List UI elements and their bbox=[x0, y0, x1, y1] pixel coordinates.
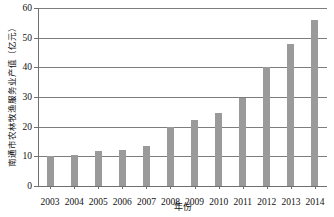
bar bbox=[263, 67, 270, 186]
y-axis-tick-label: 0 bbox=[6, 181, 32, 191]
x-axis-line bbox=[38, 186, 327, 187]
plot-area: 2003200420052006200720082009201020112012… bbox=[38, 8, 327, 186]
y-axis-tick-label: 30 bbox=[6, 92, 32, 102]
bar bbox=[95, 151, 102, 186]
bar bbox=[47, 156, 54, 186]
y-axis-tick-label: 40 bbox=[6, 62, 32, 72]
gridline bbox=[38, 67, 327, 68]
y-axis-tick-label: 20 bbox=[6, 122, 32, 132]
bar bbox=[311, 20, 318, 186]
y-axis-tick-label: 60 bbox=[6, 3, 32, 13]
gridline bbox=[38, 97, 327, 98]
bar-chart-figure: 南通市农林牧渔服务业产值（亿元） 0102030405060 200320042… bbox=[0, 0, 334, 217]
bar bbox=[71, 155, 78, 186]
bar bbox=[239, 98, 246, 186]
y-axis-tick-label: 50 bbox=[6, 33, 32, 43]
gridline bbox=[38, 156, 327, 157]
gridline bbox=[38, 38, 327, 39]
y-axis-line bbox=[38, 8, 39, 187]
gridline bbox=[38, 8, 327, 9]
y-axis-tick-label: 10 bbox=[6, 151, 32, 161]
gridline bbox=[38, 127, 327, 128]
bar bbox=[287, 44, 294, 186]
x-axis-title: 年份 bbox=[38, 200, 327, 213]
bar bbox=[119, 150, 126, 186]
bar bbox=[191, 120, 198, 186]
bar bbox=[215, 113, 222, 186]
bar bbox=[143, 146, 150, 186]
bar bbox=[167, 127, 174, 186]
